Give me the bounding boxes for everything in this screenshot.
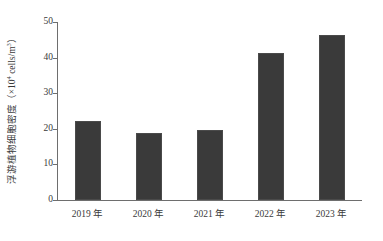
bar: [197, 130, 223, 200]
y-axis-tick-label: 0: [48, 195, 53, 205]
y-axis-title-unit: cells/m: [7, 47, 17, 77]
x-axis-tick-label: 2020 年: [118, 210, 179, 220]
bar: [75, 121, 101, 200]
x-axis-tick-label: 2019 年: [57, 210, 118, 220]
y-axis-tick-label: 50: [44, 17, 54, 27]
bar: [319, 35, 345, 200]
x-axis-tick-label: 2022 年: [240, 210, 301, 220]
y-axis-title-close-paren: ）: [7, 33, 17, 43]
y-axis-title-text: 浮游植物细胞密度（×10: [7, 80, 17, 185]
y-axis-tick-mark: [53, 164, 57, 165]
x-axis-tick-label: 2021 年: [179, 210, 240, 220]
y-axis-title-exponent: 4: [5, 76, 12, 79]
bar: [258, 53, 284, 200]
x-axis-tick-label: 2023 年: [301, 210, 362, 220]
y-axis-tick-mark: [53, 93, 57, 94]
y-axis-tick-label: 30: [44, 88, 54, 98]
y-axis-tick-mark: [53, 200, 57, 201]
y-axis-tick-mark: [53, 22, 57, 23]
y-axis-tick-label: 20: [44, 124, 54, 134]
y-axis-title-container: 浮游植物细胞密度（×104 cells/m3）: [0, 0, 26, 218]
y-axis-title: 浮游植物细胞密度（×104 cells/m3）: [8, 33, 18, 184]
y-axis-tick-label: 10: [44, 160, 54, 170]
y-axis-tick-mark: [53, 129, 57, 130]
bar: [136, 133, 162, 200]
plot-area: 01020304050 2019 年2020 年2021 年2022 年2023…: [57, 22, 362, 200]
y-axis-title-unit-exponent: 3: [5, 43, 12, 46]
x-axis-spine: [57, 200, 362, 201]
bar-chart-figure: 浮游植物细胞密度（×104 cells/m3） 01020304050 2019…: [0, 0, 383, 241]
y-axis-tick-label: 40: [44, 53, 54, 63]
y-axis-tick-mark: [53, 58, 57, 59]
y-axis-spine: [57, 22, 58, 200]
